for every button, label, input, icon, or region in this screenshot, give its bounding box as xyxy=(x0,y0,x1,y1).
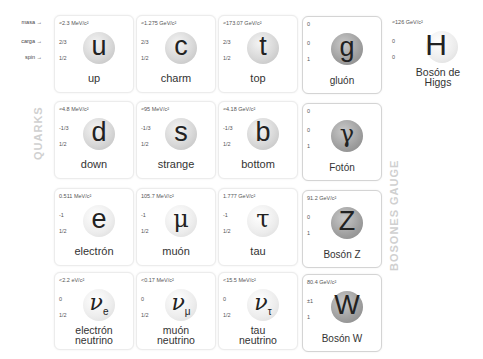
spin-value: 1/2 xyxy=(223,228,231,234)
mass-value: 0.511 MeV/c² xyxy=(59,193,91,199)
spin-value: 1/2 xyxy=(141,141,149,147)
particle-symbol: H xyxy=(418,27,454,63)
spin-value: 1/2 xyxy=(141,228,149,234)
mass-value: 0 xyxy=(307,108,310,114)
mass-value: ≈95 MeV/c² xyxy=(141,106,169,112)
spin-value: 1/2 xyxy=(59,228,67,234)
mass-value: ≈126 GeV/c² xyxy=(392,19,423,25)
charge-value: 0 xyxy=(307,214,310,220)
charge-row-label: carga → xyxy=(2,38,42,44)
nu-symbol: ν xyxy=(171,290,184,315)
nu-subscript: μ xyxy=(185,306,191,317)
particle-symbol: e xyxy=(81,201,117,237)
particle-card-down[interactable]: ≈4.8 MeV/c² -1/3 1/2 d down xyxy=(54,101,134,179)
particle-card-higgs[interactable]: ≈126 GeV/c² 0 0 H Bosón de Higgs xyxy=(388,15,468,93)
spin-value: 1 xyxy=(307,143,310,149)
spin-value: 0 xyxy=(392,54,395,60)
particle-card-z-boson[interactable]: 91.2 GeV/c² 0 1 Z Bosón Z xyxy=(302,190,382,268)
charge-value: ±1 xyxy=(307,298,313,304)
spin-value: 1 xyxy=(307,314,310,320)
particle-name: muón xyxy=(137,245,215,257)
name-line-2: neutrino xyxy=(219,335,297,345)
mass-value: 1.777 GeV/c² xyxy=(223,193,255,199)
nu-symbol: ν xyxy=(90,290,103,315)
particle-card-bottom[interactable]: ≈4.18 GeV/c² -1/3 1/2 b bottom xyxy=(218,101,298,179)
spin-value: 1/2 xyxy=(223,55,231,61)
particle-card-strange[interactable]: ≈95 MeV/c² -1/3 1/2 s strange xyxy=(136,101,216,179)
charge-value: 2/3 xyxy=(59,39,67,45)
charge-value: 0 xyxy=(141,296,144,302)
mass-value: <0.17 MeV/c² xyxy=(141,277,174,283)
mass-value: ≈4.18 GeV/c² xyxy=(223,106,255,112)
particle-symbol: c xyxy=(163,28,199,64)
mass-value: ≈2.3 MeV/c² xyxy=(59,20,89,26)
particle-name: down xyxy=(55,158,133,170)
particle-card-w-boson[interactable]: 80.4 GeV/c² ±1 1 W Bosón W xyxy=(302,274,382,352)
spin-value: 1 xyxy=(307,230,310,236)
charge-value: 0 xyxy=(307,127,310,133)
particle-symbol: νμ xyxy=(163,285,199,321)
charge-value: 0 xyxy=(59,296,62,302)
charge-value: -1 xyxy=(141,212,146,218)
name-line-2: neutrino xyxy=(55,335,133,345)
charge-value: -1 xyxy=(59,212,64,218)
particle-name: strange xyxy=(137,158,215,170)
charge-value: 0 xyxy=(307,40,310,46)
mass-value: 0 xyxy=(307,21,310,27)
particle-symbol: u xyxy=(81,28,117,64)
particle-name: Bosón W xyxy=(303,333,381,344)
particle-name: top xyxy=(219,72,297,84)
charge-value: 2/3 xyxy=(223,39,231,45)
particle-name: Bosón de Higgs xyxy=(398,67,478,87)
particle-name: charm xyxy=(137,72,215,84)
particle-name: tau neutrino xyxy=(219,325,297,345)
charge-value: -1/3 xyxy=(59,125,68,131)
spin-value: 1/2 xyxy=(223,141,231,147)
spin-value: 1 xyxy=(307,56,310,62)
particle-name: electrón xyxy=(55,245,133,257)
particle-card-charm[interactable]: ≈1.275 GeV/c² 2/3 1/2 c charm xyxy=(136,15,216,93)
particle-name: bottom xyxy=(219,158,297,170)
particle-card-electron[interactable]: 0.511 MeV/c² -1 1/2 e electrón xyxy=(54,188,134,266)
charge-value: -1 xyxy=(223,212,228,218)
mass-value: <15.5 MeV/c² xyxy=(223,277,256,283)
particle-name: Bosón Z xyxy=(303,249,381,260)
charge-value: 0 xyxy=(392,38,395,44)
spin-value: 1/2 xyxy=(141,312,149,318)
particle-card-tau-neutrino[interactable]: <15.5 MeV/c² 0 1/2 ντ tau neutrino xyxy=(218,272,298,350)
spin-value: 1/2 xyxy=(59,55,67,61)
particle-card-up[interactable]: ≈2.3 MeV/c² 2/3 1/2 u up xyxy=(54,15,134,93)
mass-value: <2.2 eV/c² xyxy=(59,277,84,283)
quarks-group-label: QUARKS xyxy=(32,106,44,160)
particle-symbol: νe xyxy=(81,285,117,321)
particle-name: tau xyxy=(219,245,297,257)
name-line-2: neutrino xyxy=(137,335,215,345)
particle-symbol: μ xyxy=(163,201,199,237)
spin-value: 1/2 xyxy=(59,312,67,318)
particle-symbol: d xyxy=(81,114,117,150)
spin-row-label: spin → xyxy=(2,54,42,60)
particle-card-top[interactable]: ≈173.07 GeV/c² 2/3 1/2 t top xyxy=(218,15,298,93)
particle-symbol: g xyxy=(329,29,365,65)
particle-symbol: γ xyxy=(329,116,365,152)
mass-value: ≈173.07 GeV/c² xyxy=(223,20,261,26)
particle-name: up xyxy=(55,72,133,84)
particle-card-photon[interactable]: 0 0 1 γ Fotón xyxy=(302,103,382,181)
charge-value: 0 xyxy=(223,296,226,302)
particle-symbol: s xyxy=(163,114,199,150)
mass-value: 91.2 GeV/c² xyxy=(307,195,336,201)
spin-value: 1/2 xyxy=(223,312,231,318)
particle-symbol: Z xyxy=(329,203,365,239)
nu-symbol: ν xyxy=(254,290,267,315)
particle-card-muon-neutrino[interactable]: <0.17 MeV/c² 0 1/2 νμ muón neutrino xyxy=(136,272,216,350)
particle-card-tau[interactable]: 1.777 GeV/c² -1 1/2 τ tau xyxy=(218,188,298,266)
particle-card-muon[interactable]: 105.7 MeV/c² -1 1/2 μ muón xyxy=(136,188,216,266)
gauge-bosons-group-label: BOSONES GAUGE xyxy=(388,160,400,271)
mass-row-label: masa → xyxy=(2,19,42,25)
particle-name: Fotón xyxy=(303,162,381,173)
particle-symbol: b xyxy=(245,114,281,150)
spin-value: 1/2 xyxy=(59,141,67,147)
particle-card-electron-neutrino[interactable]: <2.2 eV/c² 0 1/2 νe electrón neutrino xyxy=(54,272,134,350)
particle-card-gluon[interactable]: 0 0 1 g gluón xyxy=(302,16,382,94)
particle-name: electrón neutrino xyxy=(55,325,133,345)
